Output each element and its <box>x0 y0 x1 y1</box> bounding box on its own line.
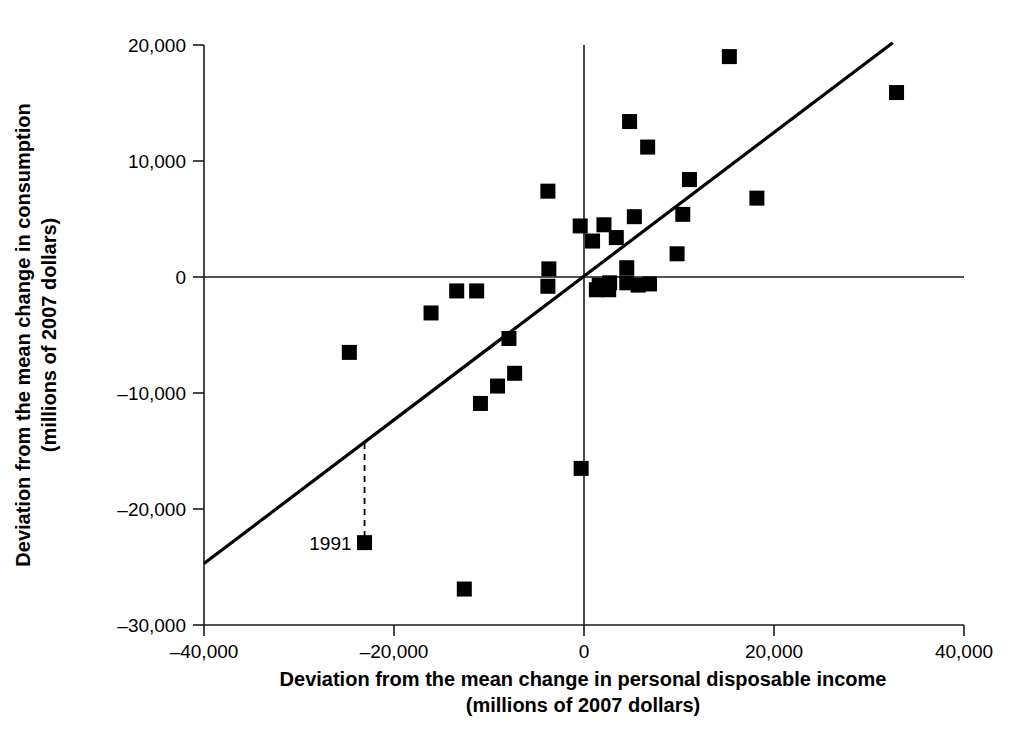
data-point-marker <box>749 191 764 206</box>
data-point-marker <box>490 379 505 394</box>
x-axis-tick-label: 0 <box>579 641 590 662</box>
data-point-marker <box>722 49 737 64</box>
data-point-marker <box>424 305 439 320</box>
data-point-marker <box>622 114 637 129</box>
data-point-marker <box>507 366 522 381</box>
data-point-marker <box>501 331 516 346</box>
y-axis-tick-label: 0 <box>175 267 186 288</box>
data-point-marker <box>889 85 904 100</box>
x-axis-tick-label: –20,000 <box>360 641 429 662</box>
y-axis-title-line1: Deviation from the mean change in consum… <box>12 103 34 566</box>
y-axis-tick-label: –20,000 <box>117 499 186 520</box>
data-point-marker <box>573 218 588 233</box>
x-axis-tick-label: 20,000 <box>745 641 803 662</box>
x-axis-title-line1: Deviation from the mean change in person… <box>280 668 887 690</box>
x-axis-tick-label: 40,000 <box>935 641 993 662</box>
data-point-marker <box>540 184 555 199</box>
data-point-marker <box>619 260 634 275</box>
data-point-marker <box>675 207 690 222</box>
data-point-marker <box>457 582 472 597</box>
y-axis-title-line2: (millions of 2007 dollars) <box>38 218 60 453</box>
data-point-marker <box>640 140 655 155</box>
chart-root: 20,00010,0000–10,000–20,000–30,000–40,00… <box>0 0 1024 739</box>
data-point-marker <box>670 246 685 261</box>
annotation-label-1991: 1991 <box>309 533 351 554</box>
y-axis-tick-label: –30,000 <box>117 615 186 636</box>
scatter-plot: 20,00010,0000–10,000–20,000–30,000–40,00… <box>0 0 1024 739</box>
data-point-marker <box>602 275 617 290</box>
x-axis-tick-label: –40,000 <box>170 641 239 662</box>
data-point-marker <box>541 261 556 276</box>
data-point-marker <box>642 276 657 291</box>
data-point-marker <box>357 535 372 550</box>
data-point-marker <box>574 461 589 476</box>
y-axis-tick-label: –10,000 <box>117 383 186 404</box>
y-axis-tick-label: 10,000 <box>128 151 186 172</box>
data-point-marker <box>596 217 611 232</box>
data-point-marker <box>540 279 555 294</box>
data-point-marker <box>627 209 642 224</box>
data-point-marker <box>342 345 357 360</box>
x-axis-title-line2: (millions of 2007 dollars) <box>466 694 701 716</box>
data-point-marker <box>585 234 600 249</box>
data-point-marker <box>473 396 488 411</box>
data-point-marker <box>469 283 484 298</box>
y-axis-tick-label: 20,000 <box>128 35 186 56</box>
data-point-marker <box>682 172 697 187</box>
data-point-marker <box>449 283 464 298</box>
data-point-marker <box>609 230 624 245</box>
